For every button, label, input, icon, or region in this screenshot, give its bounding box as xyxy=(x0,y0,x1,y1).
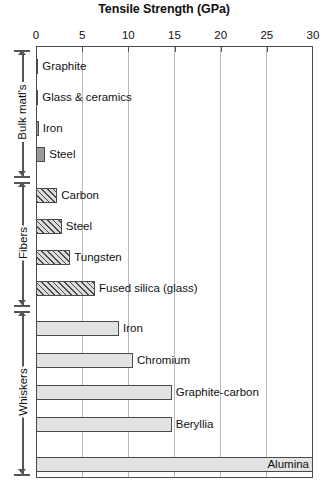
group-label-whiskers: Whiskers xyxy=(16,310,28,473)
bar-label-iron: Iron xyxy=(43,121,63,136)
group-label-text: Fibers xyxy=(16,225,28,261)
x-tick-mark-20 xyxy=(221,46,222,52)
chart-title: Tensile Strength (GPa) xyxy=(0,2,328,16)
bar-glass-ceramics xyxy=(36,90,38,105)
bar-chromium xyxy=(36,353,133,368)
bar-label-glass-ceramics: Glass & ceramics xyxy=(42,90,131,105)
x-tick-mark-25 xyxy=(267,46,268,52)
bar-label-alumina: Alumina xyxy=(267,457,309,472)
bar-graphite-carbon xyxy=(36,385,172,400)
x-tick-mark-10 xyxy=(128,46,129,52)
bracket-cap-bottom xyxy=(14,176,30,178)
bar-label-carbon: Carbon xyxy=(61,188,99,203)
bar-label-chromium: Chromium xyxy=(137,353,190,368)
bars-layer: GraphiteGlass & ceramicsIronSteelCarbonS… xyxy=(36,46,313,478)
bar-label-beryllia: Beryllia xyxy=(176,417,214,432)
bar-graphite xyxy=(36,59,38,74)
group-label-bulk-matl-s: Bulk matl's xyxy=(16,49,28,175)
bar-iron xyxy=(36,121,39,136)
x-tick-label-5: 5 xyxy=(79,29,85,41)
x-tick-label-30: 30 xyxy=(307,29,320,41)
x-tick-label-10: 10 xyxy=(122,29,135,41)
x-tick-label-15: 15 xyxy=(168,29,181,41)
bar-carbon xyxy=(36,188,57,203)
x-tick-mark-15 xyxy=(175,46,176,52)
x-tick-mark-5 xyxy=(82,46,83,52)
bar-fused-silica-glass xyxy=(36,281,95,296)
bar-label-steel: Steel xyxy=(66,219,92,234)
group-label-text: Bulk matl's xyxy=(16,82,28,141)
bar-label-fused-silica-glass: Fused silica (glass) xyxy=(99,281,197,296)
bracket-cap-bottom xyxy=(14,474,30,476)
bar-label-graphite: Graphite xyxy=(42,59,86,74)
bar-label-graphite-carbon: Graphite-carbon xyxy=(176,385,259,400)
bar-tungsten xyxy=(36,250,70,265)
bracket-cap-bottom xyxy=(14,305,30,307)
bar-label-tungsten: Tungsten xyxy=(74,250,122,265)
x-tick-label-25: 25 xyxy=(260,29,273,41)
bar-label-steel: Steel xyxy=(49,147,75,162)
group-label-fibers: Fibers xyxy=(16,181,28,304)
bar-steel xyxy=(36,219,62,234)
x-axis-tick-labels: 051015202530 xyxy=(0,29,328,43)
x-tick-label-20: 20 xyxy=(214,29,227,41)
bar-beryllia xyxy=(36,417,172,432)
group-label-text: Whiskers xyxy=(16,366,28,417)
bar-steel xyxy=(36,147,45,162)
bar-label-iron: Iron xyxy=(123,321,143,336)
group-brackets: Bulk matl'sFibersWhiskers xyxy=(0,0,36,485)
tensile-strength-bar-chart: Tensile Strength (GPa) 051015202530 Grap… xyxy=(0,0,328,485)
bar-iron xyxy=(36,321,119,336)
